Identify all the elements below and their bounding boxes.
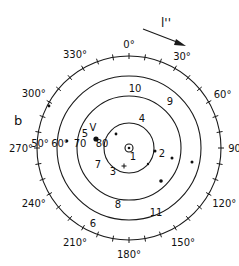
stereographic-projection-diagram: 0°30°60°90°120°150°180°210°240°270°300°3… [0,0,239,266]
inclination-label: 70 [74,138,87,149]
azimuth-label: 240° [22,198,46,209]
plus-marker [122,164,127,169]
azimuth-label: 300° [22,88,46,99]
inclination-label: 60° [51,138,69,149]
site-number: 11 [150,207,163,218]
site-number-labels: 1234567891011V [82,83,173,229]
tick-mark [35,132,41,133]
azimuth-label: 90° [228,143,239,154]
data-point [154,150,157,153]
data-point [171,157,174,160]
azimuth-label: 150° [171,237,195,248]
azimuth-label: 120° [212,198,236,209]
site-number: 10 [129,83,142,94]
data-point [147,163,149,165]
site-number: 3 [110,166,116,177]
data-point [93,136,98,141]
tick-mark [113,54,114,60]
arrow-label: l'' [161,16,171,30]
tick-mark [113,236,114,242]
azimuth-label: 210° [63,237,87,248]
data-point [115,133,118,136]
site-number: 8 [115,199,121,210]
panel-label: b [14,113,22,128]
site-number: V [90,122,97,133]
direction-arrow: l'' [143,16,186,46]
arrowhead-icon [174,39,186,46]
azimuth-label: 270° [9,143,33,154]
data-point [191,161,194,164]
azimuth-label: 330° [63,49,87,60]
azimuth-label: 180° [117,249,141,260]
data-point [48,105,51,108]
site-number: 4 [139,113,145,124]
tick-mark [217,163,223,164]
site-number: 5 [82,128,88,139]
azimuth-label: 60° [214,89,232,100]
azimuth-labels: 0°30°60°90°120°150°180°210°240°270°300°3… [9,39,239,260]
tick-mark [35,163,41,164]
site-number: 1 [130,151,136,162]
site-number: 6 [90,218,96,229]
data-point [66,140,69,143]
inclination-label: 50° [31,138,49,149]
center-dot-icon [128,147,131,150]
site-number: 2 [159,148,165,159]
data-point [159,179,163,183]
azimuth-label: 30° [173,51,191,62]
tick-mark [144,236,145,242]
tick-mark [217,132,223,133]
site-number: 9 [167,96,173,107]
tick-mark [144,54,145,60]
azimuth-label: 0° [123,39,134,50]
site-number: 7 [95,159,101,170]
